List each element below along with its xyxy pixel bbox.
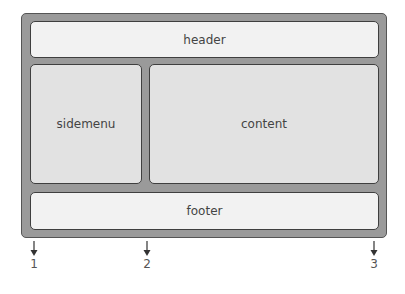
column-marker-3: 3 xyxy=(364,241,384,271)
content-label: content xyxy=(241,117,287,131)
column-marker-1: 1 xyxy=(24,241,44,271)
sidemenu-region: sidemenu xyxy=(30,64,142,184)
marker-label: 1 xyxy=(30,257,38,271)
footer-label: footer xyxy=(187,204,223,218)
content-region: content xyxy=(149,64,379,184)
header-region: header xyxy=(30,21,379,58)
sidemenu-label: sidemenu xyxy=(57,117,116,131)
arrow-down-icon xyxy=(143,241,151,257)
arrow-down-icon xyxy=(370,241,378,257)
footer-region: footer xyxy=(30,192,379,230)
marker-label: 3 xyxy=(370,257,378,271)
header-label: header xyxy=(183,33,225,47)
column-marker-2: 2 xyxy=(137,241,157,271)
marker-label: 2 xyxy=(143,257,151,271)
arrow-down-icon xyxy=(30,241,38,257)
